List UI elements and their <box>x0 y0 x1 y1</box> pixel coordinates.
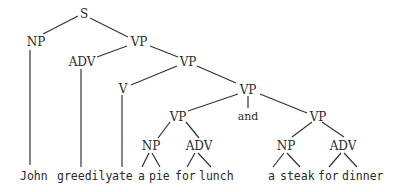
edge-vp1-vp2 <box>150 46 178 57</box>
leaf-for-1: for <box>175 169 196 183</box>
node-adv-object-2: ADV <box>329 139 357 153</box>
edge-vp3-vpright <box>260 94 307 113</box>
edge-vpleft-adv <box>186 122 199 138</box>
edge-np1-a <box>142 153 149 167</box>
node-np-subject: NP <box>27 35 46 49</box>
edge-vpright-np <box>292 122 312 137</box>
node-np-object-2: NP <box>277 139 296 153</box>
tree-leaves: John greedily ate a pie for lunch a stea… <box>20 169 384 183</box>
leaf-dinner: dinner <box>342 169 384 183</box>
node-vp-3: VP <box>239 83 257 97</box>
node-vp-1: VP <box>130 35 148 49</box>
leaf-for-2: for <box>318 169 339 183</box>
tree-nodes: S NP VP ADV VP V VP VP and VP NP ADV NP … <box>27 7 357 153</box>
edge-vpleft-np <box>158 122 170 138</box>
edge-vp2-vp3 <box>197 66 236 83</box>
node-vp-2: VP <box>179 55 197 69</box>
leaf-a-2: a <box>268 169 275 183</box>
edge-np2-steak <box>287 153 300 167</box>
leaf-ate: ate <box>112 169 133 183</box>
node-vp-left: VP <box>169 110 187 124</box>
edge-vpright-adv <box>322 122 344 137</box>
leaf-pie: pie <box>149 169 170 183</box>
edge-s-np <box>43 16 78 34</box>
edge-np1-pie <box>152 153 160 167</box>
leaf-a-1: a <box>138 169 145 183</box>
edge-adv2-for <box>329 153 341 167</box>
edge-s-vp <box>90 18 128 37</box>
edge-vp3-vpleft <box>188 94 238 111</box>
node-s: S <box>80 7 88 21</box>
edge-vp1-adv <box>97 46 127 57</box>
edge-vp2-v <box>131 66 177 85</box>
node-vp-right: VP <box>309 110 327 124</box>
leaf-lunch: lunch <box>199 169 234 183</box>
edge-adv1-lunch <box>198 153 211 167</box>
leaf-steak: steak <box>280 169 315 183</box>
node-conj-and: and <box>238 110 259 123</box>
leaf-john: John <box>20 169 48 183</box>
edge-np2-a <box>273 153 284 167</box>
node-v: V <box>118 82 128 96</box>
node-adv-1: ADV <box>68 55 96 69</box>
edge-adv2-dinner <box>344 153 357 167</box>
node-np-object-1: NP <box>142 139 161 153</box>
edge-adv1-for <box>187 153 195 167</box>
node-adv-object-1: ADV <box>185 139 213 153</box>
syntax-tree: S NP VP ADV VP V VP VP and VP NP ADV NP … <box>0 0 396 192</box>
leaf-greedily: greedily <box>57 169 112 183</box>
